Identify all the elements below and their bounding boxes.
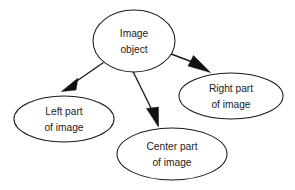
node-right-part-label-line2: of image xyxy=(211,99,250,110)
node-left-part[interactable]: Left part of image xyxy=(14,96,114,142)
node-center-part-label-line2: of image xyxy=(152,157,191,168)
edge-to-center-arrowhead xyxy=(147,107,159,127)
edge-to-left xyxy=(62,63,104,92)
node-center-part-label-line1: Center part xyxy=(147,141,198,152)
node-image-object[interactable]: Image object xyxy=(93,10,175,72)
node-image-object-label-line1: Image xyxy=(120,28,149,39)
diagram-svg: Image object Left part of image Center p… xyxy=(0,0,295,190)
node-left-part-label-line2: of image xyxy=(44,122,83,133)
diagram-canvas: Image object Left part of image Center p… xyxy=(0,0,295,190)
edge-to-right-line xyxy=(169,53,192,62)
edge-to-center xyxy=(133,72,159,128)
node-left-part-shape[interactable] xyxy=(14,96,114,142)
node-right-part-label-line1: Right part xyxy=(209,83,253,94)
node-right-part-shape[interactable] xyxy=(179,73,283,119)
node-center-part[interactable]: Center part of image xyxy=(117,128,227,180)
node-right-part[interactable]: Right part of image xyxy=(179,73,283,119)
node-left-part-label-line1: Left part xyxy=(45,106,83,117)
edge-to-right-arrowhead xyxy=(188,56,211,73)
node-image-object-shape[interactable] xyxy=(93,10,175,72)
edge-to-left-arrowhead xyxy=(62,78,79,92)
edge-to-right xyxy=(169,53,211,73)
node-center-part-shape[interactable] xyxy=(117,128,227,180)
node-image-object-label-line2: object xyxy=(120,44,147,55)
edge-to-center-line xyxy=(133,72,151,109)
